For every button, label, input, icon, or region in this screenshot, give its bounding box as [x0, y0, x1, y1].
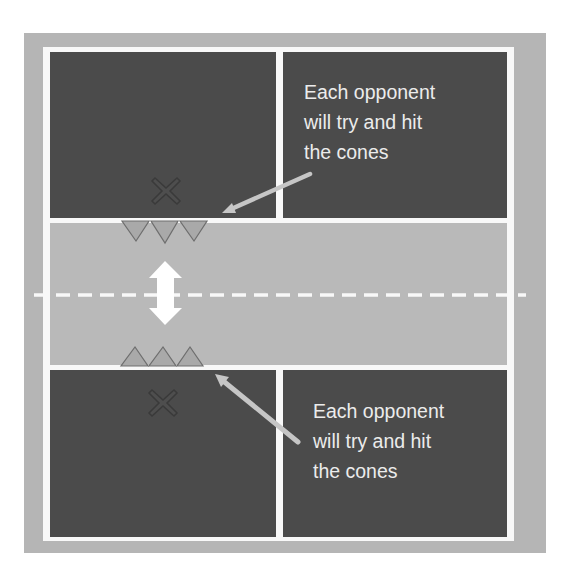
cone-icon	[180, 221, 207, 241]
cone-icon	[151, 221, 178, 243]
cones-bottom	[121, 347, 203, 366]
player-x-icon-top	[152, 178, 180, 204]
cone-icon	[177, 347, 203, 366]
diagram-overlay	[0, 0, 577, 578]
cone-icon	[149, 347, 176, 366]
cone-icon	[122, 221, 149, 241]
pointer-arrow-bottom	[215, 374, 298, 442]
pointer-arrow-top	[222, 174, 310, 213]
player-x-icon-bottom	[149, 390, 177, 416]
annotation-bottom: Each opponent will try and hit the cones	[313, 396, 444, 486]
annotation-top: Each opponent will try and hit the cones	[304, 77, 435, 167]
cones-top	[122, 221, 207, 243]
double-arrow-icon	[149, 261, 182, 325]
cone-icon	[121, 347, 148, 366]
